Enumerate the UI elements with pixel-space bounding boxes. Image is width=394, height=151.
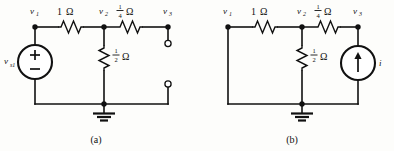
node-label-a-v3-sub: 3 xyxy=(168,11,172,17)
node-dot-a-v3 xyxy=(165,24,170,29)
resistor-b-top-right-unit: Ω xyxy=(324,6,331,17)
resistor-a-top-left-label: 1 Ω xyxy=(57,6,73,17)
node-label-b-v2-text: v xyxy=(297,6,301,16)
node-label-a-v2-sub: 2 xyxy=(105,11,108,17)
resistor-a-top-right-symbol xyxy=(104,21,143,33)
node-label-b-v3-sub: 3 xyxy=(358,11,362,17)
node-label-a-v2-text: v xyxy=(99,6,103,16)
node-label-a-v3-text: v xyxy=(163,6,167,16)
resistor-a-top-right-label: 1 4 Ω xyxy=(117,3,134,19)
resistor-a-top-right-numerator: 1 xyxy=(118,3,121,10)
node-label-b-v3: v 3 xyxy=(353,6,362,17)
resistor-a-shunt-symbol xyxy=(99,45,109,71)
resistor-a-top-left-symbol xyxy=(58,21,84,33)
open-terminal-a-bottom[interactable] xyxy=(165,81,171,87)
resistor-b-top-right-denominator: 4 xyxy=(316,12,320,19)
node-dot-b-v3 xyxy=(355,24,360,29)
source-label-a: v s1 xyxy=(4,56,15,68)
resistor-a-top-right-denominator: 4 xyxy=(118,12,122,19)
node-label-a-v3: v 3 xyxy=(163,6,172,17)
node-label-b-v3-text: v xyxy=(353,6,357,16)
node-label-b-v1-sub: 1 xyxy=(229,11,232,17)
node-dot-a-v1 xyxy=(32,24,37,29)
open-terminal-a-top[interactable] xyxy=(165,40,171,46)
resistor-a-shunt-denominator: 2 xyxy=(114,56,117,63)
resistor-b-top-right-symbol xyxy=(302,21,341,33)
resistor-b-top-left-label: 1 Ω xyxy=(251,6,267,17)
node-dot-b-v1 xyxy=(225,24,230,29)
node-label-b-v1: v 1 xyxy=(223,6,232,17)
resistor-a-shunt-unit: Ω xyxy=(122,51,129,62)
node-dot-b-ground xyxy=(299,101,304,106)
resistor-a-top-left-unit: Ω xyxy=(66,6,73,17)
node-label-b-v2-sub: 2 xyxy=(303,11,306,17)
node-dot-a-v2 xyxy=(101,24,106,29)
resistor-a-shunt-numerator: 1 xyxy=(114,47,117,54)
circuit-figure: v 1 v 2 v 3 v s1 1 Ω 1 xyxy=(0,0,394,151)
resistor-b-top-right-label: 1 4 Ω xyxy=(315,3,332,19)
resistor-b-top-right-numerator: 1 xyxy=(316,3,319,10)
resistor-b-shunt-unit: Ω xyxy=(320,51,327,62)
source-label-a-sub: s1 xyxy=(10,62,15,68)
resistor-b-shunt-label: 1 2 Ω xyxy=(311,47,328,63)
circuit-a: v 1 v 2 v 3 v s1 1 Ω 1 xyxy=(4,3,172,147)
resistor-b-shunt-numerator: 1 xyxy=(312,47,315,54)
source-label-b: i xyxy=(379,58,382,68)
node-label-a-v1-text: v xyxy=(30,6,34,16)
resistor-b-shunt-symbol xyxy=(297,45,307,71)
resistor-a-shunt-label: 1 2 Ω xyxy=(113,47,130,63)
resistor-b-shunt-denominator: 2 xyxy=(312,56,315,63)
resistor-a-top-left-value: 1 xyxy=(57,6,62,17)
caption-b: (b) xyxy=(286,134,298,146)
resistor-b-top-left-symbol xyxy=(252,21,278,33)
node-label-a-v1-sub: 1 xyxy=(36,11,39,17)
node-label-b-v1-text: v xyxy=(223,6,227,16)
node-label-b-v2: v 2 xyxy=(297,6,306,17)
node-label-a-v1: v 1 xyxy=(30,6,39,17)
circuit-diagram-canvas: v 1 v 2 v 3 v s1 1 Ω 1 xyxy=(0,0,394,151)
node-label-a-v2: v 2 xyxy=(99,6,108,17)
circuit-b: v 1 v 2 v 3 i 1 Ω 1 4 Ω xyxy=(223,3,382,147)
resistor-b-top-left-unit: Ω xyxy=(260,6,267,17)
node-dot-a-ground xyxy=(101,101,106,106)
resistor-b-top-left-value: 1 xyxy=(251,6,256,17)
resistor-a-top-right-unit: Ω xyxy=(126,6,133,17)
source-label-a-text: v xyxy=(4,56,8,66)
caption-a: (a) xyxy=(90,134,101,146)
node-dot-b-v2 xyxy=(299,24,304,29)
